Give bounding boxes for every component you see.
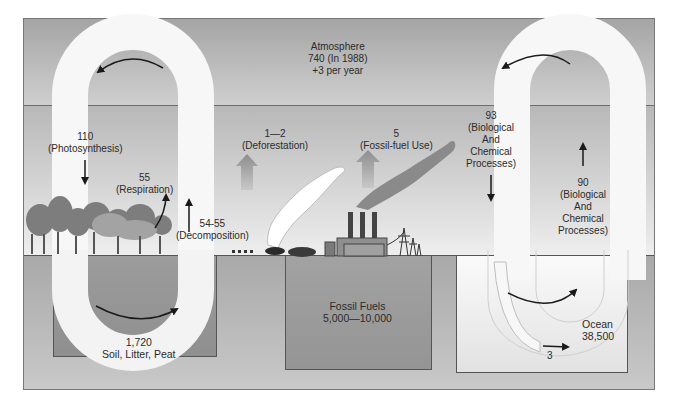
atmosphere-label: Atmosphere 740 (In 1988) +3 per year [308, 41, 368, 77]
decomposition-value: 54-55 [176, 218, 249, 230]
ocean-loop-arrow [508, 290, 576, 303]
photosynthesis-text: (Photosynthesis) [48, 143, 122, 155]
forest-icon [26, 196, 172, 254]
decomposition-text: (Decomposition) [176, 230, 249, 242]
sediment-value: 3 [547, 350, 553, 362]
fossil-fuel-use-text: (Fossil-fuel Use) [360, 140, 433, 152]
respiration-label: 55 (Respiration) [116, 172, 173, 196]
deforestation-arrow-icon [236, 154, 258, 190]
atmosphere-land-curve-arrow [98, 59, 163, 72]
soil-value: 1,720 [102, 336, 176, 348]
ocean-uptake-line1: (Biological [466, 122, 516, 134]
ocean-release-line1: (Biological [558, 189, 608, 201]
soil-name: Soil, Litter, Peat [102, 348, 176, 360]
ocean-name: Ocean [582, 318, 614, 330]
ocean-release-line2: And [558, 201, 608, 213]
sediment-arrow [543, 346, 568, 347]
fossil-fuels-label: Fossil Fuels 5,000—10,000 [323, 300, 392, 324]
power-plant-icon [325, 141, 455, 256]
fossil-fuel-arrow-icon [356, 150, 380, 188]
ocean-release-line3: Chemical [558, 213, 608, 225]
ocean-uptake-line4: Processes) [466, 158, 516, 170]
ocean-label: Ocean 38,500 [582, 318, 614, 342]
ocean-uptake-line2: And [466, 134, 516, 146]
decomposition-label: 54-55 (Decomposition) [176, 218, 249, 242]
ocean-uptake-label: 93 (Biological And Chemical Processes) [466, 110, 516, 170]
atmosphere-name: Atmosphere [308, 41, 368, 53]
fossil-fuel-use-label: 5 (Fossil-fuel Use) [360, 128, 433, 152]
fossil-fuel-use-value: 5 [360, 128, 433, 140]
soil-loop-arrow [96, 306, 177, 319]
fossil-fuels-name: Fossil Fuels [323, 300, 392, 312]
deforestation-text: (Deforestation) [242, 140, 308, 152]
photosynthesis-label: 110 (Photosynthesis) [48, 131, 122, 155]
ocean-release-line4: Processes) [558, 225, 608, 237]
sediment-label: 3 [547, 350, 553, 362]
ocean-uptake-line3: Chemical [466, 146, 516, 158]
respiration-value: 55 [116, 172, 173, 184]
fossil-fuels-value: 5,000—10,000 [323, 312, 392, 324]
respiration-text: (Respiration) [116, 184, 173, 196]
deforestation-label: 1—2 (Deforestation) [242, 128, 308, 152]
atmosphere-value: 740 (In 1988) [308, 53, 368, 65]
ocean-release-value: 90 [558, 177, 608, 189]
ocean-release-label: 90 (Biological And Chemical Processes) [558, 177, 608, 237]
deforestation-value: 1—2 [242, 128, 308, 140]
atmosphere-change: +3 per year [308, 65, 368, 77]
ocean-uptake-value: 93 [466, 110, 516, 122]
ocean-value: 38,500 [582, 330, 614, 342]
photosynthesis-value: 110 [48, 131, 122, 143]
soil-label: 1,720 Soil, Litter, Peat [102, 336, 176, 360]
